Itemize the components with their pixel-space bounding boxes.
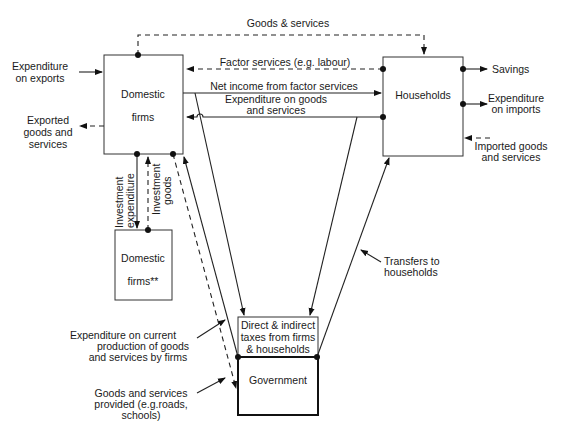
flow-imported-goods: Imported goods and services <box>465 138 547 163</box>
domestic-firms-2-label-2: firms** <box>128 275 159 287</box>
domestic-firms-label-1: Domestic <box>121 88 165 100</box>
flow-goods-services-top: Goods & services <box>135 17 424 58</box>
taxes-label-1: Direct & indirect <box>241 319 315 331</box>
flow-transfers: Transfers to households <box>314 158 440 360</box>
invest-exp-label-2: expenditure <box>124 173 136 228</box>
exports-exp-label-2: on exports <box>15 72 64 84</box>
exported-label-3: services <box>29 138 68 150</box>
households-label: Households <box>395 89 450 101</box>
imports-exp-label-2: on imports <box>491 103 540 115</box>
households-box: Households <box>383 57 463 156</box>
flow-factor-services: Factor services (e.g. labour) <box>187 56 386 72</box>
net-income-label: Net income from factor services <box>210 80 358 92</box>
imported-label-2: and services <box>482 151 541 163</box>
flow-expenditure-exports: Expenditure on exports <box>12 60 102 84</box>
factor-services-label: Factor services (e.g. labour) <box>220 56 351 68</box>
flow-savings: Savings <box>460 63 529 75</box>
flow-households-taxes <box>310 117 357 315</box>
flow-expenditure-goods: Expenditure on goods and services <box>187 93 386 120</box>
flow-expenditure-imports: Expenditure on imports <box>460 92 544 115</box>
transfers-label-2: households <box>384 266 438 278</box>
invest-goods-label-2: goods <box>161 176 173 205</box>
exported-label-2: goods and <box>23 126 72 138</box>
domestic-firms-box: Domestic firms <box>104 55 183 154</box>
taxes-label-2: taxes from firms <box>241 331 316 343</box>
exported-label-1: Exported <box>27 114 69 126</box>
taxes-box: Direct & indirect taxes from firms & hou… <box>238 317 318 357</box>
goods-services-top-label: Goods & services <box>247 17 329 29</box>
flow-exported-goods: Exported goods and services <box>23 114 104 150</box>
flow-investment-goods: Investment goods <box>145 157 173 233</box>
gov-goods-label-3: schools) <box>121 409 160 421</box>
gov-exp-label-3: and services by firms <box>89 351 188 363</box>
savings-label: Savings <box>492 63 529 75</box>
exports-exp-label-1: Expenditure <box>12 60 68 72</box>
taxes-label-3: & households <box>246 343 310 355</box>
flow-firms-taxes <box>195 93 244 315</box>
domestic-firms-2-label-1: Domestic <box>121 252 165 264</box>
domestic-firms-label-2: firms <box>132 111 155 123</box>
flow-net-income: Net income from factor services <box>183 80 381 93</box>
government-box: Government <box>238 357 318 415</box>
domestic-firms-2-box: Domestic firms** <box>115 230 172 300</box>
circular-flow-diagram: Domestic firms Households Domestic firms… <box>0 0 571 445</box>
expenditure-goods-label-2: and services <box>247 104 306 116</box>
flow-investment-expenditure: Investment expenditure <box>113 151 140 228</box>
government-label: Government <box>249 374 307 386</box>
